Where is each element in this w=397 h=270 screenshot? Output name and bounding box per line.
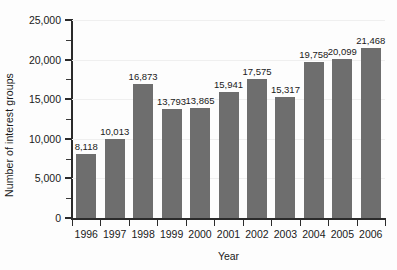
bar-value-label: 8,118 — [75, 141, 98, 152]
bar-value-label: 13,793 — [157, 96, 186, 107]
y-axis-tick — [65, 98, 71, 100]
bar — [133, 84, 153, 218]
x-axis-tick — [157, 220, 158, 226]
y-axis-tick — [65, 138, 71, 140]
x-axis-tick — [214, 220, 215, 226]
bar — [190, 108, 210, 218]
y-axis-minor-tick — [66, 119, 71, 120]
x-axis-tick-label: 1996 — [75, 228, 98, 240]
bar-value-label: 10,013 — [100, 126, 129, 137]
bar — [361, 48, 381, 218]
y-axis-minor-tick — [66, 40, 71, 41]
y-axis-minor-tick — [66, 198, 71, 199]
x-axis-tick — [328, 220, 329, 226]
x-axis-tick-label: 2006 — [359, 228, 382, 240]
y-axis-tick — [65, 19, 71, 21]
x-axis-tick — [300, 220, 301, 226]
y-axis-tick-label: 15,000 — [29, 93, 61, 105]
x-axis-tick — [243, 220, 244, 226]
x-axis-tick — [271, 220, 272, 226]
y-axis-tick-label: 20,000 — [29, 54, 61, 66]
gridline — [72, 20, 385, 21]
x-axis-tick-label: 1998 — [131, 228, 154, 240]
y-axis-minor-tick — [66, 159, 71, 160]
x-axis-line — [71, 218, 386, 220]
x-axis-tick — [129, 220, 130, 226]
y-axis-tick — [65, 217, 71, 219]
x-axis-tick — [72, 220, 73, 226]
y-axis-tick — [65, 177, 71, 179]
x-axis-tick — [357, 220, 358, 226]
bar-value-label: 21,468 — [356, 35, 385, 46]
x-axis-tick — [100, 220, 101, 226]
y-axis-title: Number of interest groups — [0, 0, 18, 270]
bar — [162, 109, 182, 218]
y-axis-tick — [65, 59, 71, 61]
bar — [304, 62, 324, 218]
bar — [76, 154, 96, 218]
x-axis-tick-label: 1997 — [103, 228, 126, 240]
bar — [247, 79, 267, 218]
x-axis-tick-label: 2002 — [245, 228, 268, 240]
bar-value-label: 13,865 — [186, 95, 215, 106]
bar-value-label: 17,575 — [242, 66, 271, 77]
bar — [105, 139, 125, 218]
x-axis-tick-label: 1999 — [160, 228, 183, 240]
bar-value-label: 15,941 — [214, 79, 243, 90]
y-axis-tick-label: 25,000 — [29, 14, 61, 26]
bar-value-label: 19,758 — [299, 49, 328, 60]
x-axis-tick-label: 2004 — [302, 228, 325, 240]
x-axis-tick-label: 2001 — [217, 228, 240, 240]
bar — [332, 59, 352, 218]
y-axis-tick-label: 5,000 — [35, 172, 61, 184]
x-axis-tick — [385, 220, 386, 226]
x-axis-tick — [186, 220, 187, 226]
bar-value-label: 20,099 — [328, 46, 357, 57]
y-axis-tick-label: 0 — [55, 212, 61, 224]
bar-value-label: 15,317 — [271, 84, 300, 95]
y-axis-tick-label: 10,000 — [29, 133, 61, 145]
x-axis-tick-label: 2000 — [188, 228, 211, 240]
x-axis-tick-label: 2003 — [274, 228, 297, 240]
x-axis-tick-label: 2005 — [331, 228, 354, 240]
x-axis-title: Year — [72, 250, 385, 262]
bar-chart: Number of interest groups 05,00010,00015… — [0, 0, 397, 270]
y-axis-minor-tick — [66, 79, 71, 80]
bar — [219, 92, 239, 218]
bar-value-label: 16,873 — [129, 71, 158, 82]
bar — [275, 97, 295, 218]
